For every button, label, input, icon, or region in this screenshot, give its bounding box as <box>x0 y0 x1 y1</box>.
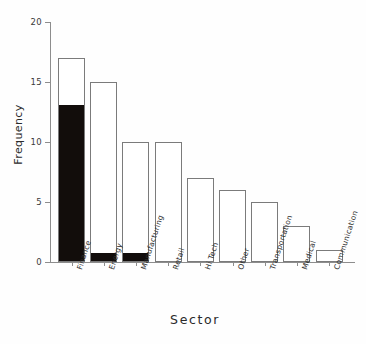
bar <box>58 58 85 262</box>
y-axis-tick <box>45 262 50 263</box>
y-axis-tick-label: 20 <box>20 17 42 27</box>
x-axis-tick <box>72 262 73 266</box>
x-axis-tick <box>200 262 201 266</box>
x-axis-tick <box>233 262 234 266</box>
y-axis-tick <box>45 82 50 83</box>
bar <box>90 82 117 262</box>
bar-filled-segment <box>59 105 84 261</box>
y-axis-tick <box>45 142 50 143</box>
y-axis-line <box>50 22 51 263</box>
y-axis-tick <box>45 22 50 23</box>
bar-chart: 05101520 FinanceEnergyManufacturingRetai… <box>0 0 366 344</box>
bar <box>155 142 182 262</box>
bar <box>122 142 149 262</box>
x-axis-tick <box>265 262 266 266</box>
y-axis-title: Frequency <box>12 85 25 185</box>
y-axis-tick <box>45 202 50 203</box>
plot-area: 05101520 FinanceEnergyManufacturingRetai… <box>0 0 366 344</box>
x-axis-tick <box>136 262 137 266</box>
x-axis-title: Sector <box>155 312 235 327</box>
x-axis-tick <box>168 262 169 266</box>
y-axis-tick-label: 5 <box>20 197 42 207</box>
x-axis-tick <box>297 262 298 266</box>
x-axis-tick <box>104 262 105 266</box>
y-axis-tick-label: 0 <box>20 257 42 267</box>
x-axis-tick <box>329 262 330 266</box>
